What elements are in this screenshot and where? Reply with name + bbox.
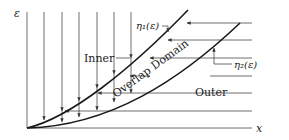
- eta1-label: η₁(ε): [136, 20, 159, 31]
- diagram-svg: ε x η₁(ε) η₂(ε) Inner Outer Overlap Doma…: [0, 0, 289, 140]
- y-axis-label: ε: [14, 7, 20, 20]
- vertical-arrows: [44, 12, 131, 120]
- outer-region-label: Outer: [195, 86, 228, 99]
- eta2-label: η₂(ε): [234, 59, 257, 70]
- x-axis-label: x: [256, 122, 263, 135]
- eta1-curve: [27, 10, 188, 128]
- inner-region-label: Inner: [84, 52, 115, 65]
- overlap-domain-diagram: ε x η₁(ε) η₂(ε) Inner Outer Overlap Doma…: [0, 0, 289, 140]
- eta2-leader: [214, 48, 232, 64]
